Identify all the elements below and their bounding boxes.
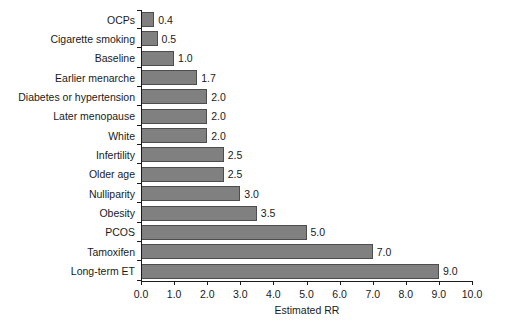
x-axis-tick	[373, 281, 374, 285]
bar	[141, 12, 154, 27]
bar	[141, 264, 439, 279]
category-label: PCOS	[105, 227, 135, 238]
bar-row: Nulliparity3.0	[141, 186, 472, 201]
category-label: Earlier menarche	[55, 72, 135, 83]
bar-value-label: 2.5	[224, 150, 243, 161]
x-axis-tick	[174, 281, 175, 285]
bar-chart-figure: OCPs0.4Cigarette smoking0.5Baseline1.0Ea…	[0, 0, 506, 334]
bar-row: Infertility2.5	[141, 147, 472, 162]
bar-row: Older age2.5	[141, 167, 472, 182]
bar-value-label: 2.5	[224, 169, 243, 180]
bar	[141, 31, 158, 46]
bar-value-label: 0.4	[154, 14, 173, 25]
category-label: Infertility	[96, 150, 135, 161]
category-label: OCPs	[107, 14, 135, 25]
x-axis-tick-label: 2.0	[200, 289, 215, 300]
x-axis-tick	[141, 281, 142, 285]
bar	[141, 70, 197, 85]
x-axis-tick	[207, 281, 208, 285]
bar-row: Later menopause2.0	[141, 109, 472, 124]
bar	[141, 51, 174, 66]
y-axis-tick	[137, 202, 141, 203]
bar-row: Long-term ET9.0	[141, 264, 472, 279]
x-axis-tick	[340, 281, 341, 285]
category-label: White	[108, 130, 135, 141]
x-axis-tick-label: 3.0	[233, 289, 248, 300]
bar-row: Tamoxifen7.0	[141, 244, 472, 259]
bar-value-label: 2.0	[207, 111, 226, 122]
bar-row: PCOS5.0	[141, 225, 472, 240]
bar	[141, 186, 240, 201]
bar-row: White2.0	[141, 128, 472, 143]
x-axis-title: Estimated RR	[141, 305, 473, 316]
bar	[141, 167, 224, 182]
x-axis-tick-label: 0.0	[134, 289, 149, 300]
x-axis-tick	[472, 281, 473, 285]
y-axis-line	[141, 10, 142, 282]
bar-value-label: 5.0	[307, 227, 326, 238]
bar	[141, 147, 224, 162]
bar-value-label: 3.5	[257, 208, 276, 219]
bar-row: Earlier menarche1.7	[141, 70, 472, 85]
x-axis-tick-label: 7.0	[365, 289, 380, 300]
y-axis-tick	[137, 125, 141, 126]
y-axis-tick	[137, 183, 141, 184]
bar-row: Obesity3.5	[141, 206, 472, 221]
bar	[141, 109, 207, 124]
bar	[141, 244, 373, 259]
y-axis-tick	[137, 222, 141, 223]
x-axis-tick-label: 1.0	[167, 289, 182, 300]
x-axis-tick-label: 5.0	[299, 289, 314, 300]
bar-value-label: 2.0	[207, 130, 226, 141]
y-axis-tick	[137, 10, 141, 11]
bar-row: Baseline1.0	[141, 51, 472, 66]
y-axis-tick	[137, 67, 141, 68]
bar	[141, 206, 257, 221]
x-axis-tick	[273, 281, 274, 285]
bar-row: Diabetes or hypertension2.0	[141, 89, 472, 104]
y-axis-tick	[137, 163, 141, 164]
y-axis-tick	[137, 260, 141, 261]
category-label: Cigarette smoking	[50, 34, 135, 45]
y-axis-tick	[137, 241, 141, 242]
category-label: Tamoxifen	[87, 246, 135, 257]
bar	[141, 89, 207, 104]
category-label: Long-term ET	[71, 266, 135, 277]
bar-value-label: 1.0	[174, 53, 193, 64]
category-label: Obesity	[99, 208, 135, 219]
bar	[141, 128, 207, 143]
y-axis-tick	[137, 144, 141, 145]
category-label: Diabetes or hypertension	[18, 92, 135, 103]
y-axis-tick	[137, 86, 141, 87]
x-axis-tick	[307, 281, 308, 285]
bar-row: Cigarette smoking0.5	[141, 31, 472, 46]
x-axis-tick	[240, 281, 241, 285]
x-axis-tick-label: 10.0	[462, 289, 482, 300]
plot-area: OCPs0.4Cigarette smoking0.5Baseline1.0Ea…	[141, 10, 472, 281]
bar-value-label: 1.7	[197, 72, 216, 83]
x-axis-line: 0.01.02.03.04.05.06.07.08.09.010.0	[141, 281, 473, 282]
bar-value-label: 0.5	[158, 34, 177, 45]
category-label: Nulliparity	[89, 188, 135, 199]
bar-value-label: 9.0	[439, 266, 458, 277]
bar-value-label: 7.0	[373, 246, 392, 257]
bar	[141, 225, 307, 240]
x-axis-tick	[406, 281, 407, 285]
category-label: Older age	[89, 169, 135, 180]
category-label: Baseline	[95, 53, 135, 64]
x-axis-tick-label: 6.0	[332, 289, 347, 300]
category-label: Later menopause	[53, 111, 135, 122]
x-axis-tick-label: 8.0	[398, 289, 413, 300]
bar-row: OCPs0.4	[141, 12, 472, 27]
x-axis-tick-label: 4.0	[266, 289, 281, 300]
x-axis-tick	[439, 281, 440, 285]
bar-value-label: 2.0	[207, 92, 226, 103]
x-axis-tick-label: 9.0	[432, 289, 447, 300]
y-axis-tick	[137, 28, 141, 29]
bar-value-label: 3.0	[240, 188, 259, 199]
y-axis-tick	[137, 47, 141, 48]
y-axis-tick	[137, 105, 141, 106]
